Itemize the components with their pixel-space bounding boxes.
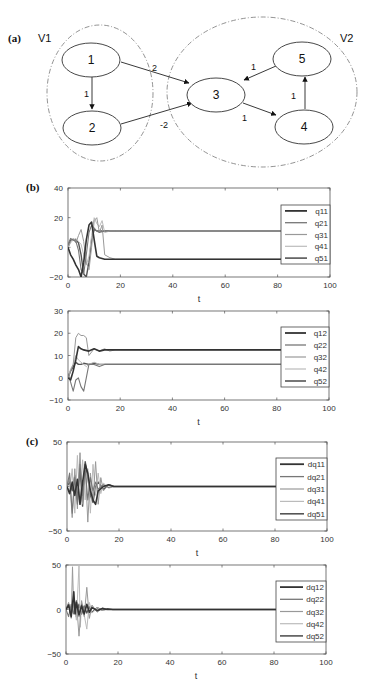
legend-label: dq41 bbox=[307, 497, 325, 506]
y-tick-label: −50 bbox=[47, 650, 61, 659]
x-axis-label: t bbox=[195, 671, 198, 681]
panel-label-a: (a) bbox=[8, 32, 21, 45]
x-tick-label: 0 bbox=[65, 535, 70, 544]
edge-arrow bbox=[244, 66, 276, 80]
x-tick-label: 0 bbox=[66, 281, 71, 290]
x-tick-label: 80 bbox=[270, 658, 279, 667]
x-tick-label: 100 bbox=[322, 404, 336, 413]
x-tick-label: 20 bbox=[114, 658, 123, 667]
edge-weight-label: 1 bbox=[84, 89, 89, 99]
x-tick-label: 80 bbox=[271, 535, 280, 544]
legend-label: dq51 bbox=[307, 510, 325, 519]
y-tick-label: −20 bbox=[49, 273, 63, 282]
node-label: 1 bbox=[88, 53, 95, 67]
x-tick-label: 0 bbox=[64, 658, 69, 667]
y-tick-label: 30 bbox=[54, 307, 63, 316]
edge-weight-label: 1 bbox=[291, 91, 296, 101]
legend-label: dq31 bbox=[307, 485, 325, 494]
chart-q-component-1: 020406080100−2002040tq11q21q31q41q51 bbox=[49, 184, 337, 304]
y-tick-label: 50 bbox=[53, 438, 62, 447]
x-tick-label: 80 bbox=[273, 281, 282, 290]
graph-node: 5 bbox=[273, 42, 331, 76]
x-axis-label: t bbox=[197, 417, 200, 427]
legend-label: q31 bbox=[315, 231, 329, 240]
x-tick-label: 40 bbox=[167, 535, 176, 544]
legend-label: q51 bbox=[315, 254, 329, 263]
chart-q-component-2: 020406080100−100102030tq12q22q32q42q52 bbox=[49, 307, 336, 427]
y-tick-label: 50 bbox=[52, 561, 61, 570]
x-axis-label: t bbox=[196, 548, 199, 558]
x-tick-label: 40 bbox=[168, 404, 177, 413]
legend-label: dq42 bbox=[306, 620, 324, 629]
x-tick-label: 60 bbox=[218, 658, 227, 667]
x-tick-label: 20 bbox=[115, 535, 124, 544]
x-tick-label: 40 bbox=[168, 281, 177, 290]
graph-node: 4 bbox=[275, 110, 333, 144]
x-tick-label: 60 bbox=[221, 281, 230, 290]
edge-weight-label: -2 bbox=[160, 120, 168, 130]
graph-node: 1 bbox=[62, 43, 120, 77]
legend-label: dq21 bbox=[307, 473, 325, 482]
x-tick-label: 100 bbox=[319, 658, 333, 667]
panel-label-b: (b) bbox=[26, 181, 40, 194]
x-tick-label: 100 bbox=[320, 535, 334, 544]
vertex-set-label: V2 bbox=[340, 32, 353, 44]
x-tick-label: 60 bbox=[219, 535, 228, 544]
y-tick-label: 0 bbox=[59, 243, 64, 252]
edge-arrow bbox=[121, 103, 192, 124]
legend-label: q41 bbox=[315, 242, 329, 251]
legend-label: dq12 bbox=[306, 583, 324, 592]
x-tick-label: 80 bbox=[272, 404, 281, 413]
y-tick-label: 20 bbox=[54, 214, 63, 223]
x-tick-label: 60 bbox=[220, 404, 229, 413]
graph-node: 3 bbox=[187, 78, 245, 112]
y-tick-label: 0 bbox=[57, 606, 62, 615]
figure: (a) V1V2 12-2111 12345 (b) (c) 020406080… bbox=[0, 0, 367, 693]
edge-weight-label: 1 bbox=[242, 113, 247, 123]
legend-label: q21 bbox=[315, 219, 329, 228]
node-label: 4 bbox=[301, 120, 308, 134]
y-tick-label: 10 bbox=[54, 352, 63, 361]
node-label: 5 bbox=[299, 52, 306, 66]
legend-label: q52 bbox=[314, 377, 328, 386]
y-tick-label: 0 bbox=[58, 483, 63, 492]
edge-weight-label: 1 bbox=[251, 62, 256, 72]
vertex-set-label: V1 bbox=[38, 32, 51, 44]
legend-label: q32 bbox=[314, 353, 328, 362]
legend: q11q21q31q41q51 bbox=[281, 205, 330, 264]
x-axis-label: t bbox=[198, 294, 201, 304]
panel-label-c: (c) bbox=[26, 435, 39, 448]
legend-label: q12 bbox=[314, 329, 328, 338]
legend-label: dq52 bbox=[306, 632, 324, 641]
node-label: 2 bbox=[89, 121, 96, 135]
graph-diagram: (a) V1V2 12-2111 12345 bbox=[8, 17, 357, 167]
legend-label: q22 bbox=[314, 341, 328, 350]
graph-node: 2 bbox=[63, 111, 121, 145]
y-tick-label: 20 bbox=[54, 329, 63, 338]
legend: dq11dq21dq31dq41dq51 bbox=[276, 458, 327, 520]
legend: q12q22q32q42q52 bbox=[281, 327, 329, 387]
y-tick-label: −10 bbox=[49, 396, 63, 405]
legend: dq12dq22dq32dq42dq52 bbox=[276, 581, 326, 642]
x-tick-label: 100 bbox=[323, 281, 337, 290]
x-tick-label: 20 bbox=[116, 404, 125, 413]
y-tick-label: 0 bbox=[59, 374, 64, 383]
y-tick-label: 40 bbox=[54, 184, 63, 193]
legend-label: dq22 bbox=[306, 595, 324, 604]
chart-dq-component-1: 020406080100−50050tdq11dq21dq31dq41dq51 bbox=[48, 438, 334, 558]
legend-label: q42 bbox=[314, 365, 328, 374]
legend-label: dq32 bbox=[306, 608, 324, 617]
node-label: 3 bbox=[213, 88, 220, 102]
legend-label: q11 bbox=[315, 207, 328, 216]
y-tick-label: −50 bbox=[48, 527, 62, 536]
x-tick-label: 40 bbox=[166, 658, 175, 667]
x-tick-label: 0 bbox=[66, 404, 71, 413]
chart-dq-component-2: 020406080100−50050tdq12dq22dq32dq42dq52 bbox=[47, 561, 333, 681]
edge-weight-label: 2 bbox=[152, 63, 157, 73]
legend-label: dq11 bbox=[308, 460, 326, 469]
x-tick-label: 20 bbox=[116, 281, 125, 290]
edge-arrow bbox=[243, 103, 276, 115]
